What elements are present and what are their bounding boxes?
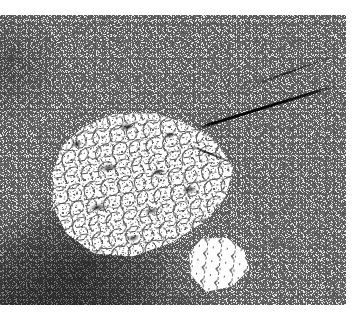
photomicrograph-figure [0,0,359,327]
margin-top [0,0,359,15]
margin-right [346,0,359,327]
margin-bottom [0,305,359,327]
photo-plate [0,15,346,305]
